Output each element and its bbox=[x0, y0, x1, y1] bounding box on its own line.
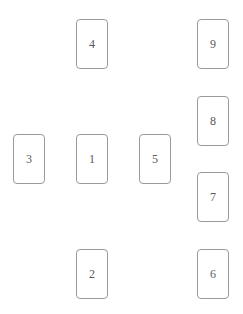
card-4[interactable]: 4 bbox=[76, 19, 108, 69]
card-label: 7 bbox=[210, 191, 216, 203]
card-3[interactable]: 3 bbox=[13, 134, 45, 184]
card-1[interactable]: 1 bbox=[76, 134, 108, 184]
card-spread-canvas: 498315726 bbox=[0, 0, 243, 314]
card-label: 6 bbox=[210, 268, 216, 280]
card-7[interactable]: 7 bbox=[197, 172, 229, 222]
card-8[interactable]: 8 bbox=[197, 96, 229, 146]
card-2[interactable]: 2 bbox=[76, 249, 108, 299]
card-label: 5 bbox=[152, 153, 158, 165]
card-label: 3 bbox=[26, 153, 32, 165]
card-label: 8 bbox=[210, 115, 216, 127]
card-label: 1 bbox=[89, 153, 95, 165]
card-9[interactable]: 9 bbox=[197, 19, 229, 69]
card-5[interactable]: 5 bbox=[139, 134, 171, 184]
card-6[interactable]: 6 bbox=[197, 249, 229, 299]
card-label: 9 bbox=[210, 38, 216, 50]
card-label: 4 bbox=[89, 38, 95, 50]
card-label: 2 bbox=[89, 268, 95, 280]
